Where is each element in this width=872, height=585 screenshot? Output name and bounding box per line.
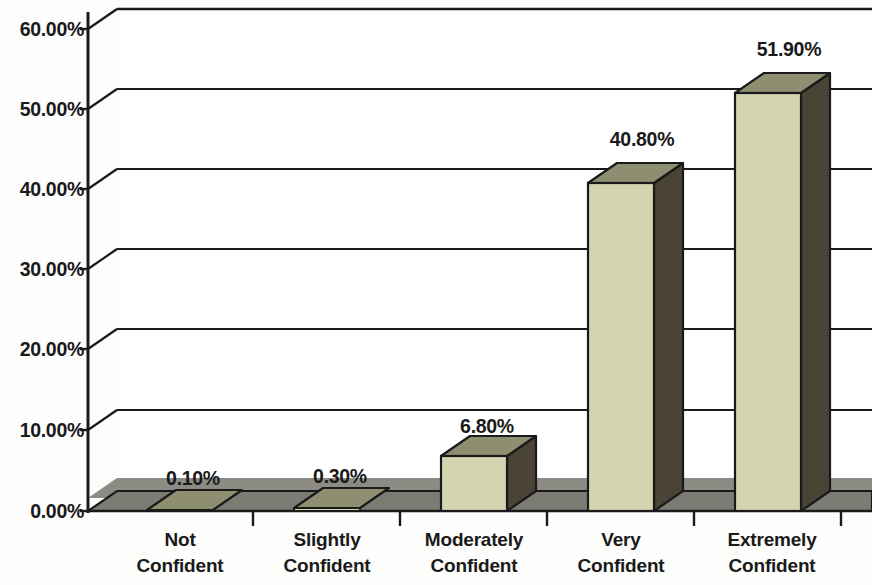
x-label-extremely-confident: Extremely Confident bbox=[727, 527, 816, 579]
y-tick-label-0: 0.00% bbox=[0, 500, 84, 523]
x-label-line2: Confident bbox=[727, 553, 816, 579]
y-tick-label-10: 10.00% bbox=[0, 419, 84, 442]
bar-moderately-confident[interactable] bbox=[441, 436, 536, 511]
y-tick-label-50: 50.00% bbox=[0, 98, 84, 121]
x-label-line1: Very bbox=[601, 529, 640, 550]
bar-chart: 60.00% 50.00% 40.00% 30.00% 20.00% 10.00… bbox=[0, 0, 872, 585]
y-tick-label-60: 60.00% bbox=[0, 18, 84, 41]
x-label-line1: Slightly bbox=[293, 529, 360, 550]
chart-canvas bbox=[0, 0, 872, 585]
y-tick-label-40: 40.00% bbox=[0, 178, 84, 201]
x-label-not-confident: Not Confident bbox=[137, 527, 224, 579]
x-label-line2: Confident bbox=[578, 553, 665, 579]
x-label-line2: Confident bbox=[137, 553, 224, 579]
bar-extremely-confident[interactable] bbox=[735, 73, 830, 511]
y-axis-labels: 60.00% 50.00% 40.00% 30.00% 20.00% 10.00… bbox=[0, 0, 84, 585]
bar-very-confident[interactable] bbox=[588, 163, 683, 511]
y-tick-label-20: 20.00% bbox=[0, 338, 84, 361]
x-axis-labels: Not Confident Slightly Confident Moderat… bbox=[0, 521, 872, 585]
x-label-line1: Not bbox=[164, 529, 195, 550]
x-label-line1: Moderately bbox=[425, 529, 523, 550]
x-label-very-confident: Very Confident bbox=[578, 527, 665, 579]
x-label-moderately-confident: Moderately Confident bbox=[425, 527, 523, 579]
x-label-line2: Confident bbox=[284, 553, 371, 579]
x-label-line2: Confident bbox=[425, 553, 523, 579]
y-tick-label-30: 30.00% bbox=[0, 258, 84, 281]
x-label-slightly-confident: Slightly Confident bbox=[284, 527, 371, 579]
x-label-line1: Extremely bbox=[727, 529, 816, 550]
